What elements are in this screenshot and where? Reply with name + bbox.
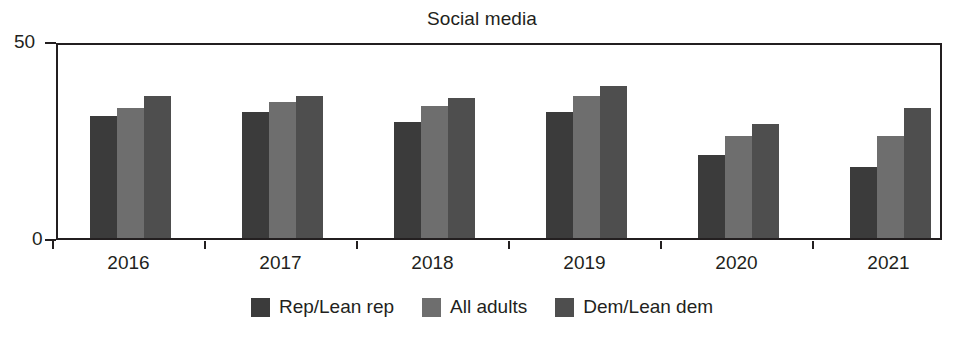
bar-group-2020	[698, 45, 779, 238]
legend-item-all-adults[interactable]: All adults	[422, 296, 527, 318]
bar-2021-dem-lean-dem	[904, 108, 931, 238]
bar-2018-rep-lean-rep	[394, 122, 421, 238]
legend-label: Rep/Lean rep	[279, 296, 394, 318]
x-axis-tick-label-2017: 2017	[236, 252, 326, 274]
bar-group-2019	[546, 45, 627, 238]
bar-2020-rep-lean-rep	[698, 155, 725, 238]
x-axis-tick-label-2016: 2016	[84, 252, 174, 274]
legend-label: All adults	[450, 296, 527, 318]
bar-2016-all-adults	[117, 108, 144, 238]
chart-legend: Rep/Lean repAll adultsDem/Lean dem	[0, 296, 964, 318]
bar-2020-dem-lean-dem	[752, 124, 779, 238]
bar-2017-all-adults	[269, 102, 296, 238]
bar-group-2017	[242, 45, 323, 238]
y-axis-tick-label-min: 0	[32, 228, 43, 250]
x-axis-tick-mark-0	[204, 241, 206, 249]
bar-2018-all-adults	[421, 106, 448, 238]
plot-area	[56, 43, 942, 240]
bar-2016-dem-lean-dem	[144, 96, 171, 238]
legend-item-dem-lean-dem[interactable]: Dem/Lean dem	[555, 296, 713, 318]
y-axis-tick-label-max: 50	[14, 31, 35, 53]
legend-swatch-icon	[251, 298, 270, 317]
bar-group-2018	[394, 45, 475, 238]
bar-2018-dem-lean-dem	[448, 98, 475, 238]
bar-2019-rep-lean-rep	[546, 112, 573, 238]
bars-layer	[58, 45, 940, 238]
y-axis-tick-mark-min	[45, 239, 56, 241]
legend-item-rep-lean-rep[interactable]: Rep/Lean rep	[251, 296, 394, 318]
bar-2020-all-adults	[725, 136, 752, 238]
x-axis-tick-mark-origin	[52, 241, 54, 249]
bar-2021-rep-lean-rep	[850, 167, 877, 238]
bar-group-2016	[90, 45, 171, 238]
x-axis-tick-mark-3	[660, 241, 662, 249]
legend-swatch-icon	[555, 298, 574, 317]
x-axis-tick-mark-1	[356, 241, 358, 249]
bar-chart: Social media 50 0 2016201720182019202020…	[0, 0, 964, 342]
bar-2016-rep-lean-rep	[90, 116, 117, 238]
x-axis-tick-mark-4	[812, 241, 814, 249]
y-axis-tick-mark-max	[45, 42, 56, 44]
legend-label: Dem/Lean dem	[583, 296, 713, 318]
x-axis-tick-label-2019: 2019	[540, 252, 630, 274]
x-axis-tick-mark-2	[508, 241, 510, 249]
bar-2021-all-adults	[877, 136, 904, 238]
x-axis-tick-label-2018: 2018	[388, 252, 478, 274]
bar-2019-all-adults	[573, 96, 600, 238]
bar-2019-dem-lean-dem	[600, 86, 627, 238]
bar-2017-dem-lean-dem	[296, 96, 323, 238]
chart-title: Social media	[0, 8, 964, 30]
bar-2017-rep-lean-rep	[242, 112, 269, 238]
legend-swatch-icon	[422, 298, 441, 317]
x-axis-tick-label-2020: 2020	[692, 252, 782, 274]
bar-group-2021	[850, 45, 931, 238]
x-axis-tick-label-2021: 2021	[844, 252, 934, 274]
